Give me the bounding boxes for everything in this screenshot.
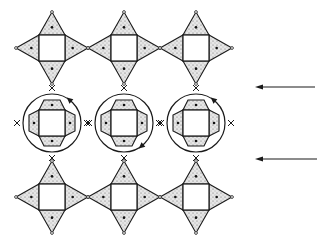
cation-dot xyxy=(69,122,72,125)
cation-dot xyxy=(215,47,218,50)
shared-oxygen xyxy=(159,47,162,50)
cation-dot xyxy=(51,67,54,70)
shared-oxygen xyxy=(87,47,90,50)
cation-dot xyxy=(195,67,198,70)
shared-oxygen xyxy=(123,83,126,86)
linker-stroke xyxy=(121,85,127,91)
cation-dot xyxy=(215,196,218,199)
arrow-head xyxy=(255,85,263,90)
tetrahedron xyxy=(209,35,232,61)
tetrahedron xyxy=(16,35,39,61)
cation-dot xyxy=(195,175,198,178)
cation-dot xyxy=(174,47,177,50)
polyhedra-layer xyxy=(14,11,234,235)
shared-oxygen xyxy=(195,232,198,235)
square-cavity xyxy=(111,110,137,136)
square-cavity xyxy=(39,35,65,61)
cation-dot xyxy=(195,216,198,219)
tetrahedron xyxy=(39,161,65,184)
tetrahedron xyxy=(16,184,39,210)
cation-dot xyxy=(141,122,144,125)
shared-oxygen xyxy=(195,11,198,14)
tetrahedron xyxy=(183,12,209,35)
cation-dot xyxy=(71,196,74,199)
tetrahedron xyxy=(183,61,209,84)
shared-oxygen xyxy=(51,11,54,14)
cation-dot xyxy=(123,104,126,107)
cation-dot xyxy=(51,104,54,107)
star-unit xyxy=(87,160,162,235)
tetrahedron xyxy=(39,12,65,35)
square-cavity xyxy=(39,184,65,210)
side-arrows-layer xyxy=(255,85,317,162)
cation-dot xyxy=(123,216,126,219)
tetrahedron xyxy=(65,184,88,210)
tetrahedron xyxy=(183,161,209,184)
square-cavity xyxy=(39,110,65,136)
square-cavity xyxy=(183,184,209,210)
cation-dot xyxy=(102,47,105,50)
cation-dot xyxy=(123,67,126,70)
arrow-head xyxy=(255,157,263,162)
star-unit xyxy=(15,11,90,86)
rotated-unit xyxy=(86,85,162,161)
shared-oxygen xyxy=(123,232,126,235)
tetrahedron xyxy=(183,210,209,233)
shared-oxygen xyxy=(123,11,126,14)
square-cavity xyxy=(111,184,137,210)
rotated-unit xyxy=(158,85,234,161)
tetrahedron xyxy=(111,210,137,233)
linker-stroke xyxy=(14,120,20,126)
shared-oxygen xyxy=(123,160,126,163)
shared-oxygen xyxy=(231,47,234,50)
shared-oxygen xyxy=(51,160,54,163)
framework-diagram xyxy=(0,0,324,244)
cation-dot xyxy=(51,140,54,143)
tetrahedron xyxy=(111,161,137,184)
cation-dot xyxy=(33,122,36,125)
star-unit xyxy=(159,11,234,86)
linker-glyph xyxy=(193,85,199,91)
cation-dot xyxy=(30,196,33,199)
shared-oxygen xyxy=(195,160,198,163)
cation-dot xyxy=(195,140,198,143)
square-cavity xyxy=(183,35,209,61)
tetrahedron xyxy=(111,12,137,35)
linker-glyph xyxy=(228,120,234,126)
cation-dot xyxy=(143,196,146,199)
cation-dot xyxy=(123,175,126,178)
tetrahedron xyxy=(160,184,183,210)
cation-dot xyxy=(51,26,54,29)
shared-oxygen xyxy=(195,83,198,86)
cation-dot xyxy=(195,26,198,29)
square-cavity xyxy=(183,110,209,136)
linker-glyph xyxy=(14,120,20,126)
cation-dot xyxy=(102,196,105,199)
linker-glyph xyxy=(49,85,55,91)
shared-oxygen xyxy=(51,83,54,86)
star-unit xyxy=(15,160,90,235)
tetrahedron xyxy=(137,35,160,61)
tetrahedron xyxy=(65,35,88,61)
tetrahedron xyxy=(137,184,160,210)
direction-arrow-left-icon xyxy=(255,85,315,90)
star-unit xyxy=(159,160,234,235)
tetrahedron xyxy=(209,184,232,210)
direction-arrow-left-icon xyxy=(255,157,317,162)
star-unit xyxy=(87,11,162,86)
cation-dot xyxy=(30,47,33,50)
cation-dot xyxy=(71,47,74,50)
cation-dot xyxy=(123,26,126,29)
cation-dot xyxy=(105,122,108,125)
shared-oxygen xyxy=(159,196,162,199)
tetrahedron xyxy=(39,61,65,84)
cation-dot xyxy=(123,140,126,143)
linker-stroke xyxy=(193,85,199,91)
tetrahedron xyxy=(88,184,111,210)
cation-dot xyxy=(174,196,177,199)
cation-dot xyxy=(51,175,54,178)
linker-stroke xyxy=(228,120,234,126)
shared-oxygen xyxy=(51,232,54,235)
linker-glyph xyxy=(121,85,127,91)
tetrahedron xyxy=(88,35,111,61)
